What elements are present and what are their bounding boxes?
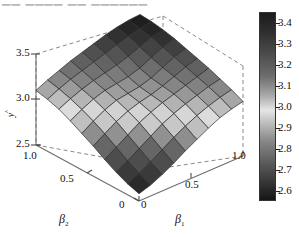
colorbar-tick-2.9: 2.9: [278, 121, 292, 133]
y-tick-0.5: 0.5: [60, 172, 74, 184]
z-tick-3.5: 3.5: [16, 46, 30, 58]
colorbar-tick-3.0: 3.0: [278, 100, 292, 112]
colorbar-tick-mark-3.0: [276, 107, 280, 108]
colorbar-tick-3.2: 3.2: [278, 58, 292, 70]
colorbar-tick-mark-2.8: [276, 149, 280, 150]
colorbar-tick-mark-3.4: [276, 23, 280, 24]
x-tick-1.0: 1.0: [232, 149, 246, 161]
colorbar-tick-3.4: 3.4: [278, 16, 292, 28]
z-axis-label-char: y: [5, 113, 16, 117]
x-axis-label: β1: [175, 212, 184, 228]
colorbar-tick-2.7: 2.7: [278, 163, 292, 175]
z-tick-2.5: 2.5: [16, 137, 30, 149]
colorbar-tick-2.6: 2.6: [278, 184, 292, 196]
figure-root: ▁▁ ▁▁▁▁ ▁▁ ▁▁▁▁▁▁: [0, 0, 299, 237]
colorbar[interactable]: [259, 12, 276, 201]
colorbar-tick-mark-3.3: [276, 44, 280, 45]
surface-mesh: [36, 14, 243, 193]
z-axis-label: y^: [2, 104, 18, 130]
y-tick-0: 0: [119, 198, 125, 210]
surface-plot-svg: [0, 8, 253, 237]
x-tick-0.5: 0.5: [185, 178, 199, 190]
colorbar-tick-3.1: 3.1: [278, 79, 292, 91]
colorbar-tick-mark-2.7: [276, 170, 280, 171]
colorbar-gradient: [260, 13, 275, 200]
colorbar-tick-3.3: 3.3: [278, 37, 292, 49]
y-axis-label-sub: 2: [65, 220, 69, 228]
y-tick-1.0: 1.0: [23, 149, 37, 161]
colorbar-tick-mark-2.6: [276, 191, 280, 192]
x-axis-label-sub: 1: [181, 220, 185, 228]
colorbar-tick-mark-3.1: [276, 86, 280, 87]
z-tick-3.0: 3.0: [16, 91, 30, 103]
z-axis-label-inner: y^: [4, 100, 15, 128]
z-axis-label-sup: ^: [4, 110, 10, 113]
caption-fragment-text: ▁▁ ▁▁▁▁ ▁▁ ▁▁▁▁▁▁: [2, 0, 148, 6]
x-tick-0: 0: [141, 198, 147, 210]
surface-plot-3d: 3.5 3.0 2.5 1.0 0.5 0 0 0.5 1.0 β2 β1 y^: [0, 8, 253, 237]
colorbar-tick-2.8: 2.8: [278, 142, 292, 154]
colorbar-tick-mark-2.9: [276, 128, 280, 129]
colorbar-tick-mark-3.2: [276, 65, 280, 66]
y-axis-label: β2: [59, 212, 68, 228]
